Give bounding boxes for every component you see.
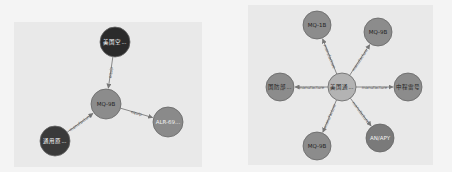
edge-label: manufacture [351,47,369,72]
node-label: ALR-69... [156,119,181,125]
node-label: 中程雷号 [396,83,420,91]
edge-label: manufacture [351,100,371,124]
edge-label: manufacture [299,85,325,90]
node-label: 美国通... [330,83,353,91]
node-label: MQ-9B [97,101,116,107]
edge-label: manufacture [322,103,337,129]
node-label: MQ-9B [308,143,327,149]
node-label: MQ-1B [308,22,327,28]
edge-label: equip [107,66,114,78]
graph-canvas[interactable]: equipequipmanufacture美国空...MQ-9BALR-69..… [0,0,452,172]
node-label: 通用原... [43,137,66,145]
edge-label: manufacture [68,113,92,132]
node-label: 美国空... [103,38,126,46]
node-label: 国防部... [268,83,291,91]
edge-label: manufacture [362,85,388,90]
edge-label: equip [130,109,143,117]
node-label: MQ-9B [369,29,388,35]
node-label: AN/APY [370,135,391,141]
edge-label: manufacture [323,44,337,70]
